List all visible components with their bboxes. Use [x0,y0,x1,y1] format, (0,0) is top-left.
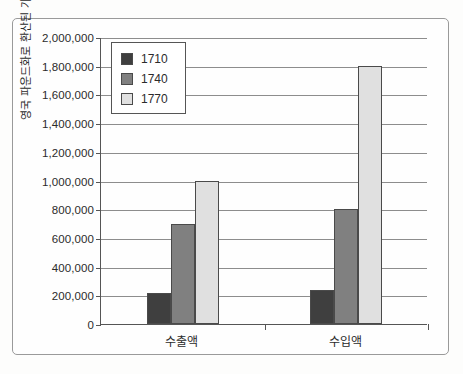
legend-label: 1740 [141,73,168,85]
y-axis-tick-label: 200,000 [52,290,94,302]
y-axis-tick-label: 400,000 [52,262,94,274]
legend-swatch-icon [121,53,133,65]
y-axis-tick [96,296,101,297]
legend-swatch-icon [121,93,133,105]
legend-swatch-icon [121,73,133,85]
y-axis-tick [96,182,101,183]
y-axis-tick-label: 1,400,000 [42,118,94,130]
y-axis-tick-label: 1,000,000 [42,176,94,188]
y-axis-tick-labels: 0200,000400,000600,000800,0001,000,0001,… [28,38,94,325]
y-axis-tick [96,38,101,39]
y-axis-tick-label: 800,000 [52,204,94,216]
y-axis-tick [96,239,101,240]
bar-1740-수입액 [334,209,358,324]
bar-1710-수입액 [310,290,334,324]
x-axis-label-수출액: 수출액 [100,332,264,349]
y-axis-tick [96,210,101,211]
bar-1740-수출액 [171,224,195,324]
y-axis-tick [96,124,101,125]
gridline [101,38,427,39]
x-axis-end-tick [428,324,429,330]
y-axis-tick [96,153,101,154]
bar-1770-수출액 [195,181,219,325]
x-axis-label-수입액: 수입액 [264,332,428,349]
y-axis-tick [96,67,101,68]
chart-figure: 영국 파운드화로 환산된 가치 0200,000400,000600,00080… [0,0,463,374]
y-axis-tick-label: 1,600,000 [42,89,94,101]
y-axis-tick [96,325,101,326]
legend-item-1710: 1710 [121,49,185,69]
legend-label: 1770 [141,93,168,105]
legend-label: 1710 [141,53,168,65]
y-axis-tick-label: 2,000,000 [42,32,94,44]
y-axis-tick-label: 1,200,000 [42,147,94,159]
y-axis-tick-label: 0 [88,319,95,331]
legend-item-1740: 1740 [121,69,185,89]
bar-1710-수출액 [147,293,171,324]
y-axis-tick-label: 1,800,000 [42,61,94,73]
bar-1770-수입액 [358,66,382,324]
legend-item-1770: 1770 [121,89,185,109]
y-axis-tick [96,268,101,269]
x-axis-group-separator [265,324,266,330]
y-axis-tick-label: 600,000 [52,233,94,245]
chart-legend: 171017401770 [111,42,186,114]
y-axis-tick [96,95,101,96]
